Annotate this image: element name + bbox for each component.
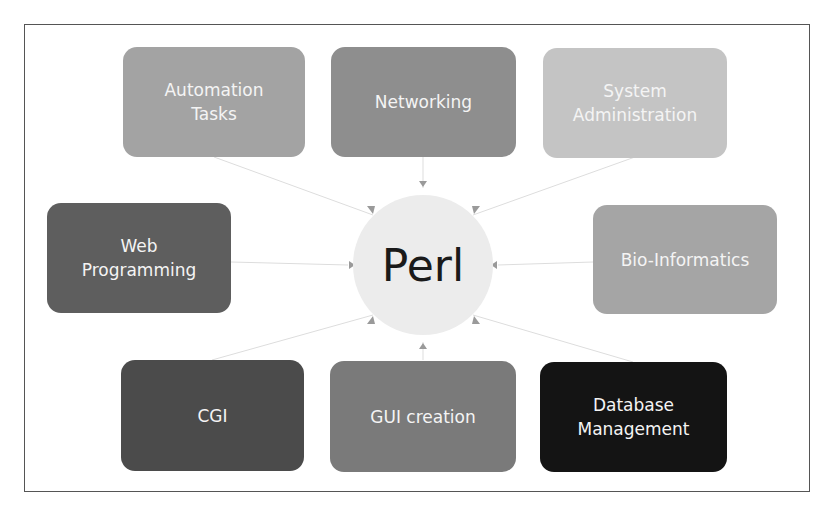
node-label-line: Networking — [375, 90, 472, 114]
node-system-administration: System Administration — [543, 48, 727, 158]
node-label-line: System — [573, 79, 697, 103]
node-automation-tasks: Automation Tasks — [123, 47, 305, 157]
node-cgi: CGI — [121, 360, 304, 471]
node-label-line: Administration — [573, 103, 697, 127]
node-label-line: Database — [578, 393, 690, 417]
node-networking: Networking — [331, 47, 516, 157]
node-gui-creation: GUI creation — [330, 361, 516, 472]
node-label-line: Management — [578, 417, 690, 441]
node-label-line: Programming — [82, 258, 197, 282]
node-label-line: Web — [82, 234, 197, 258]
node-bio-informatics: Bio-Informatics — [593, 205, 777, 314]
node-label-line: Tasks — [164, 102, 263, 126]
node-label-line: Bio-Informatics — [621, 248, 750, 272]
center-node-label: Perl — [382, 240, 464, 291]
node-label-line: GUI creation — [370, 405, 475, 429]
center-node-perl: Perl — [353, 195, 493, 335]
node-web-programming: Web Programming — [47, 203, 231, 313]
node-label-line: CGI — [197, 404, 227, 428]
node-label-line: Automation — [164, 78, 263, 102]
node-database-management: Database Management — [540, 362, 727, 472]
